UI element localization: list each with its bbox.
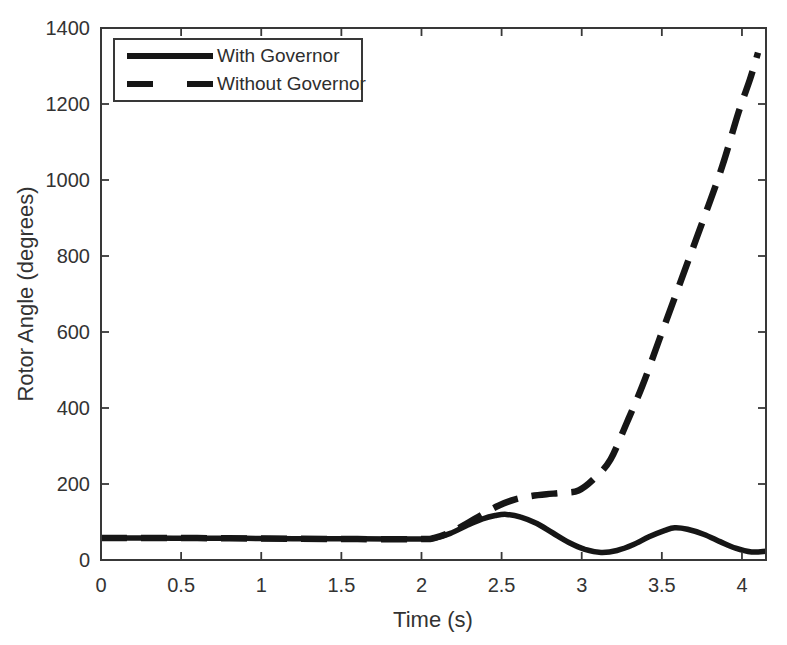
x-tick-label: 4	[736, 574, 747, 596]
y-tick-label: 800	[57, 245, 90, 267]
x-tick-label: 0.5	[167, 574, 195, 596]
series-with-governor	[101, 514, 766, 552]
x-tick-label: 1	[256, 574, 267, 596]
legend: With Governor Without Governor	[113, 38, 363, 102]
x-tick-label: 3	[576, 574, 587, 596]
y-tick-label: 600	[57, 321, 90, 343]
plot-frame	[101, 28, 766, 560]
y-tick-label: 200	[57, 473, 90, 495]
x-tick-label: 1.5	[327, 574, 355, 596]
legend-entry-with-governor: With Governor	[127, 45, 361, 67]
legend-label-without-governor: Without Governor	[217, 73, 366, 95]
x-tick-label: 3.5	[648, 574, 676, 596]
series-group	[101, 53, 766, 553]
y-axis-label: Rotor Angle (degrees)	[13, 186, 39, 401]
figure: 00.511.522.533.5402004006008001000120014…	[0, 0, 787, 645]
x-tick-label: 2	[416, 574, 427, 596]
x-tick-label: 2.5	[488, 574, 516, 596]
legend-line-dashed-sample	[127, 81, 213, 87]
y-tick-label: 1400	[46, 17, 91, 39]
legend-entry-without-governor: Without Governor	[127, 73, 361, 95]
legend-line-solid-sample	[127, 53, 213, 59]
y-tick-label: 400	[57, 397, 90, 419]
series-without-governor	[101, 53, 758, 540]
x-axis-label: Time (s)	[393, 607, 473, 633]
y-tick-label: 1000	[46, 169, 91, 191]
legend-label-with-governor: With Governor	[217, 45, 339, 67]
x-tick-label: 0	[95, 574, 106, 596]
y-tick-label: 1200	[46, 93, 91, 115]
y-tick-label: 0	[79, 549, 90, 571]
